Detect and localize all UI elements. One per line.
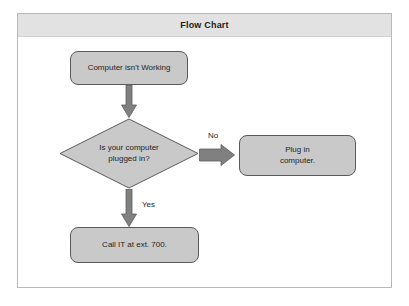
flow-edge-label-yes: Yes xyxy=(142,200,155,209)
flow-arrow-decision-to-plug xyxy=(199,144,235,166)
flow-node-plug[interactable]: Plug in computer. xyxy=(239,135,356,176)
flowchart-title-bar: Flow Chart xyxy=(18,14,391,37)
flow-edge-label-no: No xyxy=(208,131,218,140)
flow-node-plug-label-line1: Plug in xyxy=(285,145,309,154)
flow-node-callit-label: Call IT at ext. 700. xyxy=(102,240,167,251)
flow-arrow-decision-to-callit xyxy=(121,189,137,227)
flow-node-start-label: Computer isn't Working xyxy=(88,63,171,74)
flow-node-start[interactable]: Computer isn't Working xyxy=(70,51,188,85)
flow-node-callit[interactable]: Call IT at ext. 700. xyxy=(70,227,199,263)
flow-node-plug-label-line2: computer. xyxy=(280,156,315,165)
flowchart-frame: Flow Chart Computer isn't Working Is you… xyxy=(17,13,392,288)
flow-arrow-start-to-decision xyxy=(121,85,137,118)
page-title: Flow Chart xyxy=(180,20,229,30)
flow-node-plug-label-group: Plug in computer. xyxy=(280,145,315,167)
flow-node-decision[interactable]: Is your computer plugged in? xyxy=(59,118,199,189)
screenshot-canvas: Flow Chart Computer isn't Working Is you… xyxy=(0,0,409,306)
